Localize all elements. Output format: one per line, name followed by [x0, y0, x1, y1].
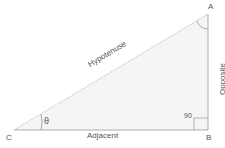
adjacent-label: Adjacent [87, 132, 118, 140]
triangle-figure [0, 0, 225, 148]
opposite-label: Opposite [219, 63, 225, 95]
vertex-c-label: C [6, 134, 12, 142]
vertex-a-label: A [208, 3, 213, 11]
right-angle-label: 90 [184, 112, 192, 119]
theta-label: θ [44, 117, 49, 126]
vertex-b-label: B [206, 134, 211, 142]
